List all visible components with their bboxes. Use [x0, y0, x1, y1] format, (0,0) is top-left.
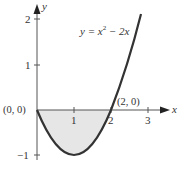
x-tick-label-1: 1 — [71, 114, 77, 126]
parabola-chart: 1 2 3 2 1 −1 x y (0, 0) (2, 0) y = x2 − … — [0, 0, 181, 169]
y-axis-label: y — [41, 0, 47, 12]
x-axis-arrow-icon — [160, 107, 170, 114]
equation-label: y = x2 − 2x — [79, 24, 130, 37]
x-tick-label-3: 3 — [145, 114, 151, 126]
y-tick-label-1: 1 — [25, 59, 31, 71]
x-tick-label-2: 2 — [108, 114, 114, 126]
origin-label: (0, 0) — [3, 104, 26, 116]
equation-prefix: y = x — [79, 25, 103, 37]
y-axis-arrow-icon — [34, 4, 41, 14]
equation-suffix: − 2x — [106, 25, 129, 37]
root-label: (2, 0) — [117, 96, 140, 108]
x-axis-label: x — [171, 103, 177, 115]
y-tick-label-2: 2 — [25, 13, 31, 25]
y-tick-label-neg1: −1 — [17, 149, 29, 161]
